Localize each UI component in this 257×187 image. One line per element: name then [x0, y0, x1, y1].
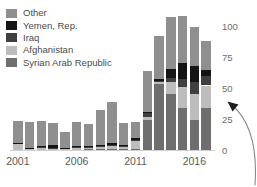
bar-segment: [96, 145, 105, 147]
plot-area: [12, 16, 212, 150]
bar-segment: [143, 120, 152, 150]
bar-segment: [154, 82, 163, 84]
bar-segment: [48, 123, 57, 145]
bar-segment: [84, 146, 93, 147]
x-tick-label: 2011: [124, 155, 147, 167]
bar-segment: [60, 148, 69, 149]
bar-segment: [96, 147, 105, 149]
bar-segment: [201, 108, 210, 150]
bar-segment: [190, 94, 199, 120]
bar-segment: [48, 145, 57, 147]
bar-segment: [119, 145, 128, 146]
bar-segment: [190, 120, 199, 150]
bar-segment: [166, 94, 175, 150]
bar-segment: [131, 138, 140, 140]
y-tick-label: 0: [222, 145, 227, 156]
bar-segment: [107, 145, 116, 146]
bar-segment: [131, 140, 140, 141]
y-tick-label: 100: [222, 20, 238, 31]
bar-segment: [166, 82, 175, 94]
bar-segment: [48, 148, 57, 149]
bar-segment: [37, 121, 46, 146]
bar-segment: [25, 122, 34, 148]
bar-segment: [178, 79, 187, 86]
bar-segment: [154, 79, 163, 80]
bar-segment: [119, 147, 128, 149]
curved-callout-arrow: [218, 78, 257, 187]
bar-2009[interactable]: [107, 102, 116, 150]
bar-segment: [84, 147, 93, 148]
bar-2004[interactable]: [48, 123, 57, 150]
bar-2007[interactable]: [84, 124, 93, 150]
y-tick-label: 25: [222, 113, 233, 124]
bar-segment: [37, 147, 46, 149]
bar-2014[interactable]: [166, 17, 175, 150]
bar-segment: [178, 87, 187, 108]
bar-2011[interactable]: [131, 122, 140, 150]
bar-segment: [72, 146, 81, 148]
bar-segment: [143, 71, 152, 112]
bar-segment: [178, 16, 187, 63]
bar-segment: [166, 78, 175, 82]
bar-2016[interactable]: [190, 27, 199, 150]
bar-segment: [201, 76, 210, 85]
bar-segment: [154, 84, 163, 150]
bar-segment: [13, 143, 22, 144]
bar-segment: [72, 146, 81, 147]
bar-2002[interactable]: [25, 122, 34, 150]
bar-2017[interactable]: [201, 41, 210, 150]
x-tick-label: 2001: [6, 155, 29, 167]
bar-segment: [119, 123, 128, 145]
bar-2005[interactable]: [60, 132, 69, 150]
y-tick-label: 75: [222, 51, 233, 62]
bar-2006[interactable]: [72, 122, 81, 150]
x-tick-label: 2006: [65, 155, 88, 167]
bar-segment: [201, 70, 210, 76]
bar-2010[interactable]: [119, 123, 128, 150]
bar-2003[interactable]: [37, 121, 46, 150]
y-tick-label: 50: [222, 82, 233, 93]
bar-segment: [143, 112, 152, 113]
bar-2001[interactable]: [13, 121, 22, 150]
bar-segment: [84, 124, 93, 146]
bar-2012[interactable]: [143, 71, 152, 150]
bar-segment: [166, 17, 175, 69]
bar-segment: [107, 146, 116, 149]
bar-segment: [166, 69, 175, 78]
bar-segment: [72, 122, 81, 146]
bar-segment: [96, 110, 105, 144]
bar-2013[interactable]: [154, 36, 163, 150]
bar-2015[interactable]: [178, 16, 187, 150]
bar-segment: [119, 146, 128, 147]
bar-segment: [190, 66, 199, 82]
bar-segment: [190, 27, 199, 67]
bar-segment: [25, 148, 34, 149]
bar-segment: [107, 143, 116, 145]
bar-segment: [131, 141, 140, 148]
bar-segment: [60, 132, 69, 148]
bar-segment: [154, 36, 163, 79]
bar-segment: [201, 86, 210, 108]
bar-segment: [154, 81, 163, 83]
x-tick-label: 2016: [183, 155, 206, 167]
bar-segment: [13, 144, 22, 150]
bar-segment: [107, 102, 116, 144]
bar-2008[interactable]: [96, 110, 105, 150]
bar-segment: [131, 122, 140, 138]
bar-segment: [178, 63, 187, 79]
bar-segment: [190, 82, 199, 93]
bar-segment: [143, 117, 152, 121]
bar-segment: [178, 108, 187, 150]
bar-segment: [13, 121, 22, 143]
x-axis-line: [10, 150, 215, 151]
bar-segment: [143, 113, 152, 117]
bar-segment: [201, 41, 210, 70]
bar-segment: [96, 146, 105, 147]
chart-figure: OtherYemen, Rep.IraqAfghanistanSyrian Ar…: [0, 0, 257, 187]
